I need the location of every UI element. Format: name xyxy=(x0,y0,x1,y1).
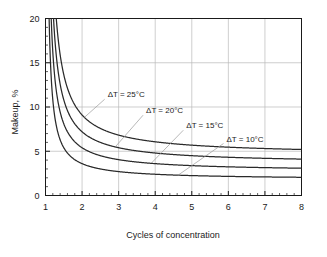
x-tick-label: 6 xyxy=(226,202,231,212)
x-axis-title: Cycles of concentration xyxy=(126,230,220,240)
x-tick-label: 5 xyxy=(189,202,194,212)
y-tick-label: 15 xyxy=(29,58,39,68)
y-axis-title: Makeup, % xyxy=(10,89,20,134)
makeup-vs-cycles-chart: ΔT = 25°CΔT = 20°CΔT = 15°CΔT = 10°C 123… xyxy=(0,0,327,257)
x-tick-label: 1 xyxy=(43,202,48,212)
y-tick-label: 0 xyxy=(34,191,39,201)
x-tick-label: 7 xyxy=(262,202,267,212)
x-tick-label: 3 xyxy=(116,202,121,212)
x-tick-label: 8 xyxy=(299,202,304,212)
y-tick-label: 10 xyxy=(29,102,39,112)
y-tick-label: 20 xyxy=(29,14,39,24)
series-label-delta-t-10: ΔT = 10°C xyxy=(227,135,264,144)
x-tick-label: 2 xyxy=(80,202,85,212)
y-tick-label: 5 xyxy=(34,147,39,157)
chart-figure: ΔT = 25°CΔT = 20°CΔT = 15°CΔT = 10°C 123… xyxy=(0,0,327,257)
x-tick-label: 4 xyxy=(153,202,158,212)
series-label-delta-t-20: ΔT = 20°C xyxy=(146,106,183,115)
series-label-delta-t-15: ΔT = 15°C xyxy=(186,121,223,130)
series-label-delta-t-25: ΔT = 25°C xyxy=(108,90,145,99)
